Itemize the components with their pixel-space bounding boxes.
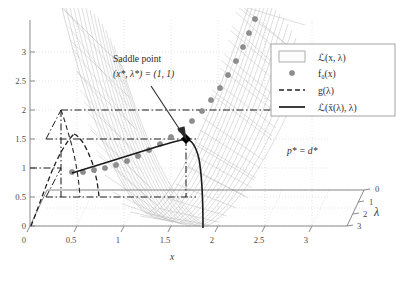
z-tick-3: 3: [22, 47, 26, 57]
f0-marker: [189, 118, 194, 123]
f0-marker: [246, 30, 251, 35]
x-tick-1_5: 1.5: [160, 235, 171, 245]
f0-marker: [91, 167, 96, 172]
f0-marker: [199, 108, 204, 113]
f0-marker: [208, 97, 213, 102]
lambda-tick-2: 2: [363, 209, 367, 219]
f0-marker: [240, 44, 245, 49]
f0-marker: [168, 134, 173, 139]
x-tick-3: 3: [304, 235, 308, 245]
lambda-axis-label: λ: [373, 205, 379, 219]
z-tick-2_5: 2.5: [15, 76, 26, 86]
f0-marker: [252, 16, 257, 21]
f0-marker: [217, 85, 222, 90]
f0-marker: [102, 165, 107, 170]
z-tick-2: 2: [22, 105, 26, 115]
x-tick-2: 2: [210, 235, 214, 245]
x-axis-label: x: [169, 252, 175, 262]
f0-marker: [225, 72, 230, 77]
z-tick-1_5: 1.5: [15, 134, 26, 144]
lambda-tick-1: 1: [369, 197, 373, 207]
z-tick-0: 0: [22, 221, 26, 231]
lambda-tick-0: 0: [375, 184, 379, 194]
f0-marker: [135, 153, 140, 158]
f0-marker: [113, 162, 118, 167]
legend-swatch-surface: [279, 51, 305, 62]
x-tick-0: 0: [22, 235, 26, 245]
legend-swatch-f0-dot-icon: [289, 70, 294, 75]
z-tick-0_5: 0.5: [15, 192, 26, 202]
legend-label-g: g(λ): [318, 85, 334, 97]
saddle-annotation-line2: (x*, λ*) = (1, 1): [113, 68, 174, 80]
duality-gap-label: p* = d*: [286, 145, 318, 156]
x-tick-1: 1: [116, 235, 120, 245]
legend-label-f0: f₀(x): [318, 68, 336, 80]
lambda-tick-3: 3: [357, 221, 361, 231]
legend-label-Lxbar: ℒ(x̄(λ), λ): [318, 102, 357, 114]
figure-canvas: 3 2.5 2 1.5 1 0.5 0 0 0.5 1 1.5 2 2.5 3 …: [0, 0, 402, 283]
x-tick-2_5: 2.5: [254, 235, 265, 245]
saddle-annotation-line1: Saddle point: [113, 53, 162, 64]
f0-marker: [233, 58, 238, 63]
z-tick-1: 1: [22, 163, 26, 173]
legend-label-surface: ℒ(x, λ): [318, 52, 346, 64]
f0-marker: [124, 158, 129, 163]
x-tick-0_5: 0.5: [66, 235, 77, 245]
legend: ℒ(x, λ) f₀(x) g(λ) ℒ(x̄(λ), λ): [271, 44, 395, 116]
plot-svg: 3 2.5 2 1.5 1 0.5 0 0 0.5 1 1.5 2 2.5 3 …: [0, 0, 402, 283]
